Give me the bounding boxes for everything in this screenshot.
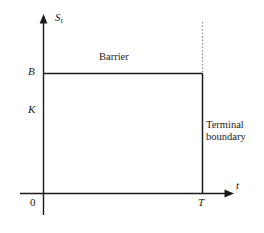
terminal-boundary-annotation-line1: Terminal [206,119,246,131]
y-tick-label-barrier: B [28,65,35,77]
origin-label: 0 [30,196,36,208]
diagram-canvas [0,0,264,233]
y-axis-label: St [55,11,63,23]
y-tick-label-strike: K [28,103,35,115]
x-axis-arrowhead [225,190,235,198]
x-tick-label-maturity: T [198,196,204,208]
barrier-option-diagram: St t B K 0 T Barrier Terminal boundary [0,0,264,233]
terminal-boundary-annotation-line2: boundary [206,131,246,143]
y-axis [40,14,48,215]
y-axis-arrowhead [40,14,48,24]
x-axis-label: t [236,179,239,191]
barrier-annotation: Barrier [99,51,129,63]
terminal-boundary-annotation: Terminal boundary [206,119,246,143]
y-axis-label-base: S [55,11,61,23]
y-axis-label-subscript: t [61,16,63,25]
